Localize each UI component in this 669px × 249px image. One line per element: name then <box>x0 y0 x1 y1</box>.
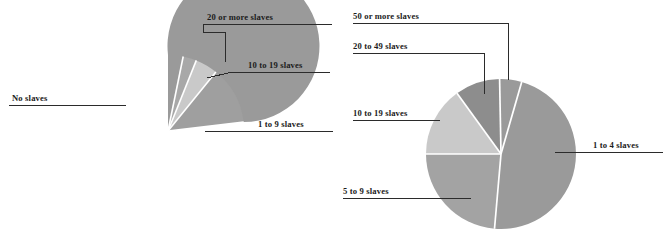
right-label-50-or-more: 50 or more slaves <box>353 11 419 21</box>
right-label-20-to-49: 20 to 49 slaves <box>353 41 408 51</box>
right-slice-5-to-9 <box>426 154 501 229</box>
right-pie-group <box>426 79 576 229</box>
left-label-20-or-more: 20 or more slaves <box>207 12 273 22</box>
right-label-1-to-4: 1 to 4 slaves <box>593 140 639 150</box>
right-label-10-to-19: 10 to 19 slaves <box>353 108 408 118</box>
left-label-10-to-19: 10 to 19 slaves <box>248 60 303 70</box>
left-label-1-to-9: 1 to 9 slaves <box>258 119 304 129</box>
right-label-5-to-9: 5 to 9 slaves <box>343 186 389 196</box>
pie-charts-canvas <box>0 0 669 249</box>
left-label-no-slaves: No slaves <box>12 93 48 103</box>
pie-chart-figure: 20 or more slaves 10 to 19 slaves No sla… <box>0 0 669 249</box>
